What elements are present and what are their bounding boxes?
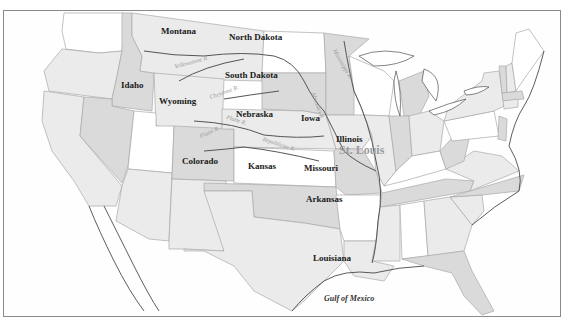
label-kansas: Kansas: [248, 161, 276, 171]
state-new-jersey: [498, 116, 507, 141]
label-idaho: Idaho: [121, 80, 144, 90]
label-montana: Montana: [161, 26, 196, 36]
state-arizona: [116, 169, 172, 241]
label-colorado: Colorado: [182, 156, 218, 166]
state-connecticut: [503, 99, 518, 109]
state-washington: [62, 13, 124, 53]
label-louisiana: Louisiana: [313, 253, 351, 263]
state-alabama: [400, 201, 428, 259]
map-frame: Montana North Dakota South Dakota Idaho …: [3, 10, 561, 317]
label-south-dakota: South Dakota: [225, 70, 278, 80]
label-st-louis: St. Louis: [339, 143, 384, 158]
label-north-dakota: North Dakota: [229, 32, 282, 42]
state-ohio: [409, 111, 444, 156]
state-oregon: [44, 49, 122, 99]
us-map: [4, 11, 561, 317]
label-missouri: Missouri: [304, 163, 338, 173]
label-wyoming: Wyoming: [159, 96, 196, 106]
state-maine: [512, 29, 544, 91]
label-arkansas: Arkansas: [306, 194, 343, 204]
lake-michigan: [394, 71, 401, 116]
label-gulf-of-mexico: Gulf of Mexico: [324, 294, 374, 303]
state-new-york: [444, 71, 504, 121]
state-florida: [402, 251, 494, 315]
